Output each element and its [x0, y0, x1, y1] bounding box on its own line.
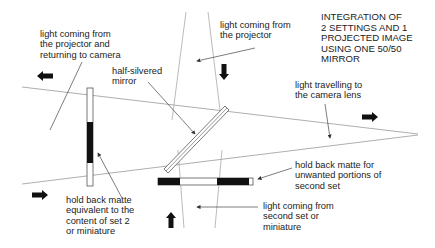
label-projector: light coming from the projector	[220, 20, 291, 41]
label-second-set-light: light coming from second set or miniatur…	[263, 201, 334, 232]
diagram-title: INTEGRATION OF 2 SETTINGS AND 1 PROJECTE…	[321, 12, 413, 65]
label-camera-lens: light travelling to the camera lens	[295, 80, 362, 101]
leader-matte-set2	[98, 153, 122, 198]
second-set-beam-right	[215, 150, 222, 228]
leader-matte-second-set	[258, 168, 292, 179]
arrow-left-icon	[37, 71, 53, 81]
label-hold-back-matte-second-set: hold back matte for unwanted portions of…	[295, 160, 381, 191]
label-hold-back-matte-set2: hold back matte equivalent to the conten…	[66, 195, 134, 236]
label-projector-return: light coming from the projector and retu…	[40, 29, 121, 60]
leader-projector-return	[50, 62, 82, 130]
leader-mirror	[148, 82, 195, 134]
arrow-right-icon	[32, 190, 48, 200]
vertical-matte	[87, 88, 93, 186]
diagram-canvas: INTEGRATION OF 2 SETTINGS AND 1 PROJECTE…	[0, 0, 435, 248]
half-silvered-mirror	[164, 106, 229, 173]
projector-beam-right	[208, 12, 220, 110]
projector-beam-left	[172, 12, 186, 120]
arrow-right-icon	[362, 112, 378, 122]
horizontal-matte	[158, 178, 253, 185]
arrow-down-icon	[219, 64, 229, 80]
leader-camera-lens	[325, 104, 330, 138]
label-half-silvered-mirror: half-silvered mirror	[112, 66, 162, 87]
arrow-up-icon	[166, 212, 176, 228]
leader-projector	[197, 48, 255, 61]
